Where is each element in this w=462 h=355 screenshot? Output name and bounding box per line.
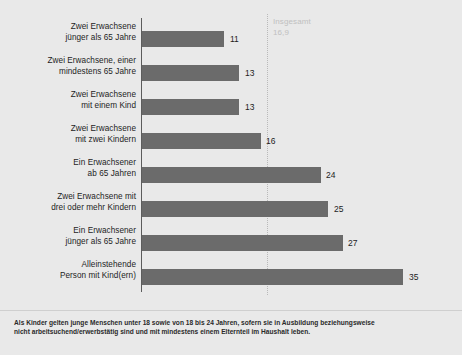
bar-value-label: 16 [266,133,275,149]
plot-area: Insgesamt 16,9 Zwei Erwachsene jünger al… [0,0,462,310]
bar-row: Ein Erwachsener ab 65 Jahren 24 [0,158,462,192]
bar [142,167,321,183]
bar-category-label: Zwei Erwachsene mit zwei Kindern [6,124,136,145]
bar-value-label: 25 [334,201,343,217]
footnote: Als Kinder gelten junge Menschen unter 1… [14,318,450,336]
bar-label-line2: mit zwei Kindern [6,135,136,146]
bar-category-label: Zwei Erwachsene jünger als 65 Jahre [6,22,136,43]
bar-value-label: 24 [326,167,335,183]
bar-label-line1: Ein Erwachsener [73,158,136,167]
bar-row: Zwei Erwachsene mit drei oder mehr Kinde… [0,192,462,226]
bar [142,201,328,217]
bar-row: Zwei Erwachsene mit zwei Kindern 16 [0,124,462,158]
bar-category-label: Ein Erwachsener jünger als 65 Jahre [6,226,136,247]
bar-label-line1: Zwei Erwachsene [71,22,136,31]
bar [142,269,403,285]
bar-value-label: 13 [245,99,254,115]
footnote-line2: nicht arbeitsuchend/erwerbstätig sind un… [14,327,450,336]
bar [142,235,343,251]
bar-value-label: 35 [409,269,418,285]
bar-label-line1: Zwei Erwachsene mit [57,192,136,201]
bar-value-label: 11 [230,31,239,47]
bar-label-line2: Person mit Kind(ern) [6,271,136,282]
bar-label-line1: Zwei Erwachsene [71,90,136,99]
bar-category-label: Alleinstehende Person mit Kind(ern) [6,260,136,281]
bar-category-label: Zwei Erwachsene, einer mindestens 65 Jah… [6,56,136,77]
bar-label-line2: ab 65 Jahren [6,169,136,180]
bar-category-label: Ein Erwachsener ab 65 Jahren [6,158,136,179]
bar [142,31,224,47]
bar [142,65,239,81]
bar-label-line1: Zwei Erwachsene, einer [48,56,136,65]
bar-row: Zwei Erwachsene jünger als 65 Jahre 11 [0,22,462,56]
bar-row: Alleinstehende Person mit Kind(ern) 35 [0,260,462,294]
bar-value-label: 13 [245,65,254,81]
footnote-line1: Als Kinder gelten junge Menschen unter 1… [14,319,375,326]
bar-label-line1: Alleinstehende [82,260,136,269]
footer-divider [0,310,462,311]
bar-label-line2: jünger als 65 Jahre [6,237,136,248]
bar-category-label: Zwei Erwachsene mit einem Kind [6,90,136,111]
bar-label-line2: mit einem Kind [6,101,136,112]
bar-label-line2: drei oder mehr Kindern [6,203,136,214]
bar-row: Zwei Erwachsene mit einem Kind 13 [0,90,462,124]
bar-label-line1: Ein Erwachsener [73,226,136,235]
bar-row: Ein Erwachsener jünger als 65 Jahre 27 [0,226,462,260]
bar-label-line2: mindestens 65 Jahre [6,67,136,78]
bar-chart-card: Insgesamt 16,9 Zwei Erwachsene jünger al… [0,0,462,355]
bar [142,99,239,115]
bar-label-line1: Zwei Erwachsene [71,124,136,133]
bar-row: Zwei Erwachsene, einer mindestens 65 Jah… [0,56,462,90]
bar-label-line2: jünger als 65 Jahre [6,33,136,44]
bar [142,133,261,149]
bar-value-label: 27 [348,235,357,251]
bar-category-label: Zwei Erwachsene mit drei oder mehr Kinde… [6,192,136,213]
